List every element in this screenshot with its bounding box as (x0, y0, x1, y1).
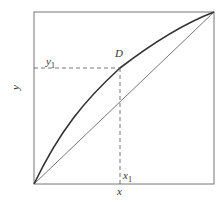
diagram-canvas (0, 0, 224, 203)
y1-label-sub: 1 (51, 61, 55, 70)
x1-label: x1 (123, 170, 132, 184)
diagonal-line (34, 12, 214, 184)
x1-label-sub: 1 (128, 175, 132, 184)
y-axis-label: y (10, 85, 21, 90)
point-d-label: D (115, 48, 123, 59)
y1-label: y1 (46, 56, 55, 70)
x-axis-label: x (117, 186, 122, 197)
